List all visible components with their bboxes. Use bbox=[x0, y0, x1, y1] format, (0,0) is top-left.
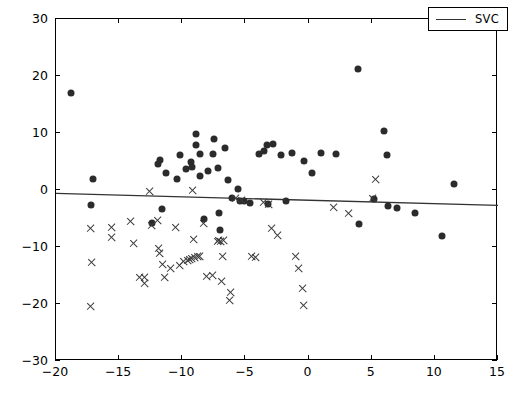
data-point-dot bbox=[215, 209, 222, 216]
svc-line-path bbox=[56, 193, 498, 205]
data-point-cross bbox=[154, 248, 165, 259]
data-point-dot bbox=[214, 165, 221, 172]
data-point-dot bbox=[196, 172, 203, 179]
y-tick-right bbox=[492, 189, 497, 190]
data-point-cross bbox=[85, 301, 96, 312]
x-tick-label: −5 bbox=[235, 364, 253, 379]
x-tick-label: −10 bbox=[168, 364, 194, 379]
data-point-dot bbox=[89, 175, 96, 182]
x-tick bbox=[181, 355, 182, 360]
data-point-cross bbox=[194, 251, 205, 262]
x-tick-top bbox=[308, 18, 309, 23]
data-point-cross bbox=[218, 235, 229, 246]
x-tick-label: 0 bbox=[304, 364, 312, 379]
data-point-dot bbox=[309, 169, 316, 176]
data-point-dot bbox=[247, 200, 254, 207]
data-point-cross bbox=[225, 287, 236, 298]
data-point-dot bbox=[318, 149, 325, 156]
data-point-dot bbox=[300, 157, 307, 164]
data-point-dot bbox=[450, 180, 457, 187]
data-point-dot bbox=[209, 150, 216, 157]
data-point-dot bbox=[289, 149, 296, 156]
y-tick-right bbox=[492, 132, 497, 133]
x-tick-label: −15 bbox=[105, 364, 131, 379]
data-point-dot bbox=[176, 151, 183, 158]
data-point-cross bbox=[216, 276, 227, 287]
data-point-dot bbox=[68, 89, 75, 96]
data-point-dot bbox=[222, 144, 229, 151]
data-point-cross bbox=[198, 218, 209, 229]
data-point-cross bbox=[85, 223, 96, 234]
data-point-dot bbox=[354, 65, 361, 72]
data-point-cross bbox=[125, 216, 136, 227]
y-tick-right bbox=[492, 75, 497, 76]
data-point-dot bbox=[204, 168, 211, 175]
data-point-cross bbox=[187, 185, 198, 196]
data-point-dot bbox=[159, 205, 166, 212]
data-point-dot bbox=[385, 202, 392, 209]
y-tick-right bbox=[492, 360, 497, 361]
data-point-dot bbox=[411, 210, 418, 217]
x-tick bbox=[244, 355, 245, 360]
figure: −20−15−10−5051015 −30−20−100102030 SVC bbox=[0, 0, 516, 407]
data-point-cross bbox=[290, 251, 301, 262]
x-tick-label: 5 bbox=[367, 364, 375, 379]
data-point-cross bbox=[272, 230, 283, 241]
data-point-dot bbox=[439, 233, 446, 240]
data-point-cross bbox=[152, 215, 163, 226]
x-tick bbox=[308, 355, 309, 360]
data-point-cross bbox=[217, 251, 228, 262]
data-point-cross bbox=[170, 222, 181, 233]
x-tick bbox=[497, 355, 498, 360]
plot-axes bbox=[55, 18, 497, 360]
x-tick-label: 10 bbox=[426, 364, 442, 379]
data-point-cross bbox=[236, 195, 247, 206]
y-tick-label: −10 bbox=[22, 239, 48, 254]
legend: SVC bbox=[428, 7, 508, 31]
data-point-cross bbox=[144, 186, 155, 197]
data-point-cross bbox=[263, 199, 274, 210]
data-point-cross bbox=[367, 193, 378, 204]
y-tick bbox=[55, 18, 60, 19]
data-point-cross bbox=[343, 208, 354, 219]
data-point-dot bbox=[210, 135, 217, 142]
x-tick-top bbox=[244, 18, 245, 23]
data-point-cross bbox=[139, 278, 150, 289]
data-point-cross bbox=[250, 252, 261, 263]
data-point-dot bbox=[383, 152, 390, 159]
y-tick bbox=[55, 303, 60, 304]
data-point-dot bbox=[193, 130, 200, 137]
data-point-dot bbox=[193, 141, 200, 148]
y-tick-right bbox=[492, 246, 497, 247]
y-tick bbox=[55, 360, 60, 361]
y-tick bbox=[55, 132, 60, 133]
data-point-dot bbox=[333, 150, 340, 157]
data-point-cross bbox=[188, 234, 199, 245]
data-point-cross bbox=[106, 222, 117, 233]
y-tick-label: 30 bbox=[32, 11, 48, 26]
x-tick-label: 15 bbox=[489, 364, 505, 379]
data-point-dot bbox=[196, 151, 203, 158]
data-point-cross bbox=[106, 232, 117, 243]
x-tick bbox=[118, 355, 119, 360]
data-point-cross bbox=[86, 257, 97, 268]
y-tick bbox=[55, 246, 60, 247]
data-point-dot bbox=[393, 204, 400, 211]
data-point-dot bbox=[88, 201, 95, 208]
x-tick bbox=[371, 355, 372, 360]
y-tick bbox=[55, 75, 60, 76]
x-tick bbox=[434, 355, 435, 360]
data-point-dot bbox=[224, 176, 231, 183]
svc-decision-line bbox=[56, 19, 498, 361]
y-tick-label: 10 bbox=[32, 125, 48, 140]
data-point-dot bbox=[189, 163, 196, 170]
y-tick-label: 20 bbox=[32, 68, 48, 83]
legend-label-svc: SVC bbox=[475, 12, 499, 26]
data-point-dot bbox=[156, 156, 163, 163]
data-point-dot bbox=[356, 220, 363, 227]
data-point-cross bbox=[328, 202, 339, 213]
data-point-cross bbox=[293, 263, 304, 274]
x-tick-top bbox=[371, 18, 372, 23]
data-point-dot bbox=[282, 198, 289, 205]
y-tick-right bbox=[492, 303, 497, 304]
